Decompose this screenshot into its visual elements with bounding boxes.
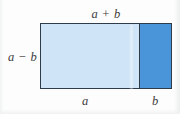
- paper-edge-tint-bottom: [0, 109, 180, 114]
- rectangle-outline: [40, 23, 172, 89]
- label-top-side-length: a + b: [0, 8, 180, 21]
- rectangle-region-a: [41, 24, 139, 88]
- rectangle-region-b: [139, 24, 171, 88]
- label-left-side-length: a − b: [8, 51, 37, 64]
- label-bottom-segment-a: a: [82, 95, 89, 108]
- label-bottom-segment-b: b: [152, 95, 159, 108]
- geometric-figure: a + b a − b a b: [0, 0, 180, 114]
